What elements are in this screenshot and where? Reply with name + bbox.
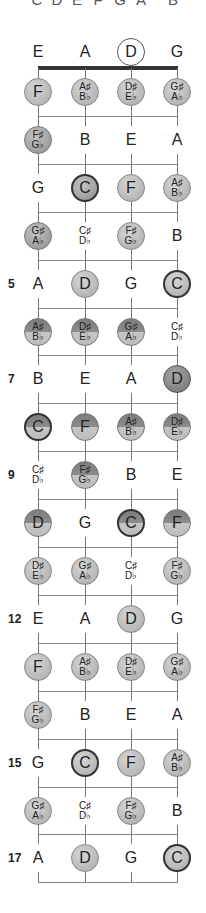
fret-line-5 — [38, 308, 178, 309]
note-fret1-string-A: A♯B♭ — [71, 78, 99, 106]
note-label: D — [32, 515, 44, 531]
note-fret8-string-E: C — [24, 413, 52, 441]
fret-marker-15: 15 — [8, 756, 24, 770]
note-enharmonic-label: D♭ — [32, 475, 44, 485]
note-fret9-string-D: B — [117, 461, 145, 489]
open-string-A: A — [71, 38, 99, 66]
note-enharmonic-label: D♭ — [125, 571, 137, 581]
note-fret16-string-D: F♯G♭ — [117, 797, 145, 825]
note-label: C — [32, 419, 44, 435]
note-fret17-string-D: G — [117, 844, 145, 872]
note-label: A — [33, 850, 44, 866]
note-enharmonic-label: G♭ — [32, 140, 45, 150]
note-fret17-string-A: D — [71, 844, 99, 872]
fret-line-1 — [38, 116, 178, 117]
note-enharmonic-label: G♭ — [125, 811, 138, 821]
note-label: C♯ — [79, 801, 91, 811]
fret-line-9 — [38, 499, 178, 500]
note-fret2-string-G: A — [163, 126, 191, 154]
note-fret13-string-D: D♯E♭ — [117, 653, 145, 681]
open-string-G: G — [163, 38, 191, 66]
note-fret8-string-G: D♯E♭ — [163, 413, 191, 441]
note-fret15-string-E: G — [24, 749, 52, 777]
note-fret11-string-E: D♯E♭ — [24, 557, 52, 585]
fret-line-10 — [38, 547, 178, 548]
note-label: B — [80, 132, 91, 148]
note-fret12-string-A: A — [71, 605, 99, 633]
note-enharmonic-label: B♭ — [79, 667, 91, 677]
note-fret14-string-G: A — [163, 701, 191, 729]
note-fret13-string-A: A♯B♭ — [71, 653, 99, 681]
note-fret17-string-E: A — [24, 844, 52, 872]
note-fret3-string-G: A♯B♭ — [163, 174, 191, 202]
note-fret3-string-E: G — [24, 174, 52, 202]
note-enharmonic-label: A♭ — [32, 811, 44, 821]
note-fret5-string-D: G — [117, 270, 145, 298]
note-fret9-string-G: E — [163, 461, 191, 489]
fret-marker-12: 12 — [8, 612, 24, 626]
note-label: B — [172, 803, 183, 819]
note-fret4-string-E: G♯A♭ — [24, 222, 52, 250]
note-label: F — [126, 755, 136, 771]
note-label: A — [80, 611, 91, 627]
fret-line-12 — [38, 643, 178, 644]
note-fret7-string-A: E — [71, 365, 99, 393]
note-label: C — [171, 850, 183, 866]
note-fret11-string-D: C♯D♭ — [117, 557, 145, 585]
fret-line-6 — [38, 355, 178, 356]
note-label: D — [125, 44, 137, 60]
note-label: B — [172, 228, 183, 244]
note-fret15-string-D: F — [117, 749, 145, 777]
nut — [38, 66, 178, 70]
note-fret4-string-D: F♯G♭ — [117, 222, 145, 250]
note-enharmonic-label: B♭ — [171, 763, 183, 773]
open-string-E: E — [24, 38, 52, 66]
note-enharmonic-label: G♭ — [125, 236, 138, 246]
note-fret4-string-A: C♯D♭ — [71, 222, 99, 250]
note-label: B — [126, 467, 137, 483]
note-label: B — [33, 371, 44, 387]
fret-line-13 — [38, 691, 178, 692]
note-fret4-string-G: B — [163, 222, 191, 250]
fret-line-14 — [38, 739, 178, 740]
note-label: D — [79, 276, 91, 292]
note-fret2-string-D: E — [117, 126, 145, 154]
note-label: D — [125, 611, 137, 627]
note-label: G — [125, 276, 137, 292]
note-label: G — [32, 755, 44, 771]
note-fret5-string-G: C — [163, 270, 191, 298]
note-fret9-string-E: C♯D♭ — [24, 461, 52, 489]
note-fret3-string-A: C — [71, 174, 99, 202]
note-label: F♯ — [125, 801, 136, 811]
note-label: C♯ — [171, 322, 183, 332]
fret-line-2 — [38, 164, 178, 165]
note-fret10-string-D: C — [117, 509, 145, 537]
fret-line-16 — [38, 834, 178, 835]
note-fret3-string-D: F — [117, 174, 145, 202]
note-label: F — [33, 84, 43, 100]
note-label: A — [172, 707, 183, 723]
note-fret14-string-D: E — [117, 701, 145, 729]
fret-line-15 — [38, 787, 178, 788]
note-label: A — [172, 132, 183, 148]
note-enharmonic-label: B♭ — [125, 427, 137, 437]
note-fret2-string-E: F♯G♭ — [24, 126, 52, 154]
fret-marker-9: 9 — [8, 468, 24, 482]
note-fret7-string-E: B — [24, 365, 52, 393]
note-label: G — [171, 611, 183, 627]
note-fret16-string-A: C♯D♭ — [71, 797, 99, 825]
note-label: C — [79, 180, 91, 196]
note-label: E — [33, 611, 44, 627]
note-fret10-string-A: G — [71, 509, 99, 537]
note-fret10-string-E: D — [24, 509, 52, 537]
note-enharmonic-label: B♭ — [79, 92, 91, 102]
note-label: E — [126, 707, 137, 723]
fret-line-3 — [38, 212, 178, 213]
note-label: E — [80, 371, 91, 387]
note-fret8-string-A: F — [71, 413, 99, 441]
fret-line-4 — [38, 260, 178, 261]
note-fret12-string-D: D — [117, 605, 145, 633]
note-enharmonic-label: A♭ — [32, 236, 44, 246]
note-fret11-string-G: F♯G♭ — [163, 557, 191, 585]
note-label: B — [80, 707, 91, 723]
